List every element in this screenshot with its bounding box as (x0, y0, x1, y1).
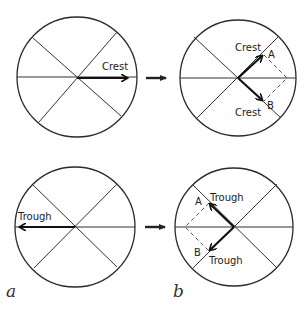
wave-superposition-diagram: Crest Crest Crest A B Trough Trough (0, 0, 304, 309)
crest-label-a: Crest (235, 42, 261, 53)
point-a-label: A (268, 49, 275, 60)
point-b-label: B (267, 100, 274, 111)
crest-label-b: Crest (235, 107, 261, 118)
circle-bottom-left: Trough (15, 167, 135, 287)
circle-top-left: Crest (17, 17, 137, 137)
trough-vector-b (210, 227, 234, 250)
circle-bottom-right: Trough Trough A B (175, 168, 293, 286)
trough-label-b: Trough (208, 255, 243, 266)
column-label-b: b (173, 281, 184, 301)
point-b-label-bottom: B (194, 247, 201, 258)
circle-top-right: Crest Crest A B (180, 20, 296, 136)
trough-label-a: Trough (209, 192, 244, 203)
trough-vector-a (210, 204, 234, 227)
crest-vector-b (238, 78, 262, 100)
point-a-label-bottom: A (195, 196, 202, 207)
crest-vector-a (238, 56, 262, 78)
trough-label: Trough (17, 211, 52, 222)
column-label-a: a (6, 281, 16, 301)
crest-label: Crest (102, 61, 128, 72)
